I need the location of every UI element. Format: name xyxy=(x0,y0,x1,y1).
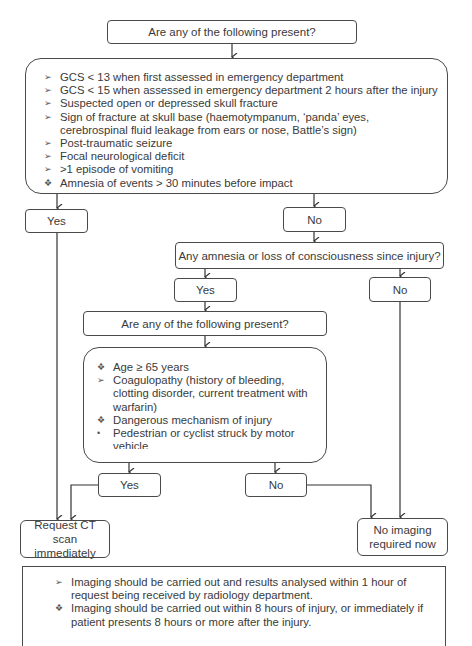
answer-label: Yes xyxy=(47,214,66,228)
list-item-text: Dangerous mechanism of injury xyxy=(113,414,272,426)
list-item-text: GCS < 15 when assessed in emergency depa… xyxy=(60,84,438,96)
answer-no-box: No xyxy=(283,207,346,232)
list-item: ❖Imaging should be carried out within 8 … xyxy=(55,602,440,628)
list-item: ➢Imaging should be carried out and resul… xyxy=(55,576,440,602)
question-label: Are any of the following present? xyxy=(121,317,289,331)
outcome-label: No imaging required now xyxy=(366,523,439,551)
list-item-text: >1 episode of vomiting xyxy=(60,163,173,175)
answer-no-box: No xyxy=(369,277,431,302)
list-item-text: GCS < 13 when first assessed in emergenc… xyxy=(60,71,344,83)
question-box-amnesia: Any amnesia or loss of consciousness sin… xyxy=(175,242,444,269)
list-item: ❖Amnesia of events > 30 minutes before i… xyxy=(44,177,439,190)
list-item: ➢Post-traumatic seizure xyxy=(44,137,439,150)
arrow-bullet-icon: ➢ xyxy=(44,137,58,150)
list-item-text: Pedestrian or cyclist struck by motor ve… xyxy=(113,427,294,449)
arrow-bullet-icon: ➢ xyxy=(44,111,58,124)
arrow-bullet-icon: ➢ xyxy=(97,374,111,387)
list-item: ❖Age ≥ 65 years xyxy=(97,361,322,374)
outcome-request-ct-box: Request CT scan immediately xyxy=(20,520,110,558)
notes-list: ➢Imaging should be carried out and resul… xyxy=(55,576,440,629)
outcome-label: Request CT scan immediately xyxy=(25,518,105,560)
notes-box: ➢Imaging should be carried out and resul… xyxy=(22,566,446,646)
list-item: ➢GCS < 15 when assessed in emergency dep… xyxy=(44,84,439,97)
list-item: ➢Coagulopathy (history of bleeding, clot… xyxy=(97,374,322,414)
dot-bullet-icon: • xyxy=(97,427,111,440)
diamond-bullet-icon: ❖ xyxy=(97,414,111,427)
outcome-no-imaging-box: No imaging required now xyxy=(357,518,448,556)
list-item: ➢>1 episode of vomiting xyxy=(44,163,439,176)
list-item-text: Suspected open or depressed skull fractu… xyxy=(60,97,278,109)
list-item-text: Imaging should be carried out within 8 h… xyxy=(71,602,423,627)
arrow-bullet-icon: ➢ xyxy=(44,150,58,163)
list-item-text: Imaging should be carried out and result… xyxy=(71,576,406,601)
question-label: Are any of the following present? xyxy=(148,25,316,39)
list-item-text: Sign of fracture at skull base (haemotym… xyxy=(60,111,369,136)
answer-yes-box: Yes xyxy=(98,473,161,497)
list-item: ➢Suspected open or depressed skull fract… xyxy=(44,97,439,110)
diamond-bullet-icon: ❖ xyxy=(44,177,58,190)
list-item: ➢Sign of fracture at skull base (haemoty… xyxy=(44,111,439,137)
answer-label: No xyxy=(269,478,284,492)
list-item-text: Age ≥ 65 years xyxy=(113,361,189,373)
question-label: Any amnesia or loss of consciousness sin… xyxy=(178,249,440,263)
list-item-text: Focal neurological deficit xyxy=(60,150,184,162)
arrow-bullet-icon: ➢ xyxy=(44,163,58,176)
question-box-any-present-2: Are any of the following present? xyxy=(83,311,327,336)
answer-yes-box: Yes xyxy=(25,209,88,233)
arrow-bullet-icon: ➢ xyxy=(44,71,58,84)
answer-label: Yes xyxy=(196,283,215,297)
question-box-any-present: Are any of the following present? xyxy=(107,20,357,44)
list-item: ➢GCS < 13 when first assessed in emergen… xyxy=(44,71,439,84)
high-risk-criteria-list: ➢GCS < 13 when first assessed in emergen… xyxy=(44,71,439,190)
list-item: •Pedestrian or cyclist struck by motor v… xyxy=(97,427,322,449)
list-item-text: Amnesia of events > 30 minutes before im… xyxy=(60,177,293,189)
list-item-text: Post-traumatic seizure xyxy=(60,137,172,149)
answer-label: No xyxy=(393,283,408,297)
answer-label: Yes xyxy=(120,478,139,492)
arrow-bullet-icon: ➢ xyxy=(44,97,58,110)
criteria-box-high-risk: ➢GCS < 13 when first assessed in emergen… xyxy=(25,58,448,194)
list-item: ➢Focal neurological deficit xyxy=(44,150,439,163)
answer-no-box: No xyxy=(245,473,307,497)
diamond-bullet-icon: ❖ xyxy=(55,602,69,615)
criteria-box-risk-factors: ❖Age ≥ 65 years➢Coagulopathy (history of… xyxy=(83,347,327,463)
diamond-bullet-icon: ❖ xyxy=(97,361,111,374)
arrow-bullet-icon: ➢ xyxy=(55,576,69,589)
arrow-bullet-icon: ➢ xyxy=(44,84,58,97)
list-item: ❖Dangerous mechanism of injury xyxy=(97,414,322,427)
answer-label: No xyxy=(307,213,322,227)
list-item-text: Coagulopathy (history of bleeding, clott… xyxy=(113,374,308,412)
answer-yes-box: Yes xyxy=(174,278,237,302)
risk-factor-criteria-list: ❖Age ≥ 65 years➢Coagulopathy (history of… xyxy=(97,361,322,449)
